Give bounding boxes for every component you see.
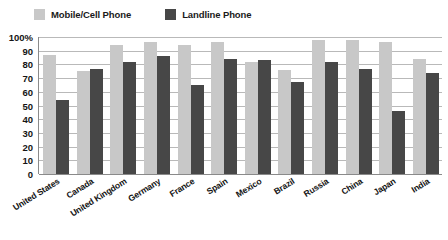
bar-mobile [379, 42, 392, 174]
y-axis-tick-label: 60 [22, 87, 33, 96]
bar-group [211, 37, 237, 174]
bar-landline [258, 60, 271, 174]
bar-landline [191, 85, 204, 174]
bar-landline [291, 82, 304, 174]
x-axis-tick-label: Mexico [234, 176, 263, 199]
x-axis-tick-label: Germany [126, 176, 162, 204]
x-axis-tick-label: United States [11, 176, 61, 213]
x-axis-tick-label: Brazil [272, 176, 296, 196]
bar-groups [39, 37, 442, 174]
legend-item-landline: Landline Phone [165, 9, 251, 20]
bar-mobile [211, 42, 224, 174]
bar-group [43, 37, 69, 174]
bar-group [144, 37, 170, 174]
bar-landline [392, 111, 405, 174]
bar-mobile [346, 40, 359, 174]
y-axis-tick-label: 10 [22, 156, 33, 165]
bar-mobile [178, 45, 191, 174]
plot-area [38, 37, 442, 174]
bar-landline [224, 59, 237, 174]
y-axis-tick-label: 50 [22, 101, 33, 110]
bar-landline [426, 73, 439, 174]
y-axis-tick-label: 30 [22, 128, 33, 137]
bar-mobile [77, 71, 90, 174]
bar-group [245, 37, 271, 174]
y-axis-tick-label: 20 [22, 142, 33, 151]
x-axis-tick-label: France [167, 176, 195, 199]
bar-landline [325, 62, 338, 174]
bar-group [413, 37, 439, 174]
y-axis-tick-label: 40 [22, 115, 33, 124]
legend-label-landline: Landline Phone [182, 9, 251, 20]
bar-group [346, 37, 372, 174]
chart-legend: Mobile/Cell Phone Landline Phone [34, 6, 251, 22]
bar-mobile [278, 70, 291, 174]
y-axis-tick-label: 100% [9, 33, 33, 42]
bar-landline [123, 62, 136, 174]
bar-mobile [245, 62, 258, 174]
bar-group [178, 37, 204, 174]
bar-group [77, 37, 103, 174]
y-axis-tick-label: 70 [22, 74, 33, 83]
bar-group [379, 37, 405, 174]
x-axis: United StatesCanadaUnited KingdomGermany… [38, 174, 442, 240]
bar-mobile [144, 42, 157, 174]
legend-label-mobile: Mobile/Cell Phone [51, 9, 131, 20]
y-axis-tick-label: 80 [22, 60, 33, 69]
x-axis-tick-label: China [339, 176, 364, 197]
bar-landline [90, 69, 103, 174]
bar-group [110, 37, 136, 174]
legend-swatch-mobile-icon [34, 9, 45, 20]
bar-mobile [110, 45, 123, 174]
x-axis-tick-label: Spain [205, 176, 230, 196]
legend-item-mobile: Mobile/Cell Phone [34, 9, 131, 20]
bar-mobile [312, 40, 325, 174]
x-axis-tick-label: Japan [372, 176, 398, 197]
x-axis-tick-label: Russia [302, 176, 330, 199]
bar-group [312, 37, 338, 174]
bar-group [278, 37, 304, 174]
y-axis-tick-label: 90 [22, 46, 33, 55]
y-axis: 100%9080706050403020100 [0, 37, 36, 174]
bar-mobile [413, 59, 426, 174]
x-axis-tick-label: India [409, 176, 431, 195]
bar-landline [56, 100, 69, 174]
legend-swatch-landline-icon [165, 9, 176, 20]
phone-ownership-bar-chart: Mobile/Cell Phone Landline Phone 100%908… [0, 0, 448, 240]
y-axis-tick-label: 0 [28, 170, 33, 179]
bar-landline [157, 56, 170, 174]
bar-mobile [43, 55, 56, 174]
bar-landline [359, 69, 372, 174]
